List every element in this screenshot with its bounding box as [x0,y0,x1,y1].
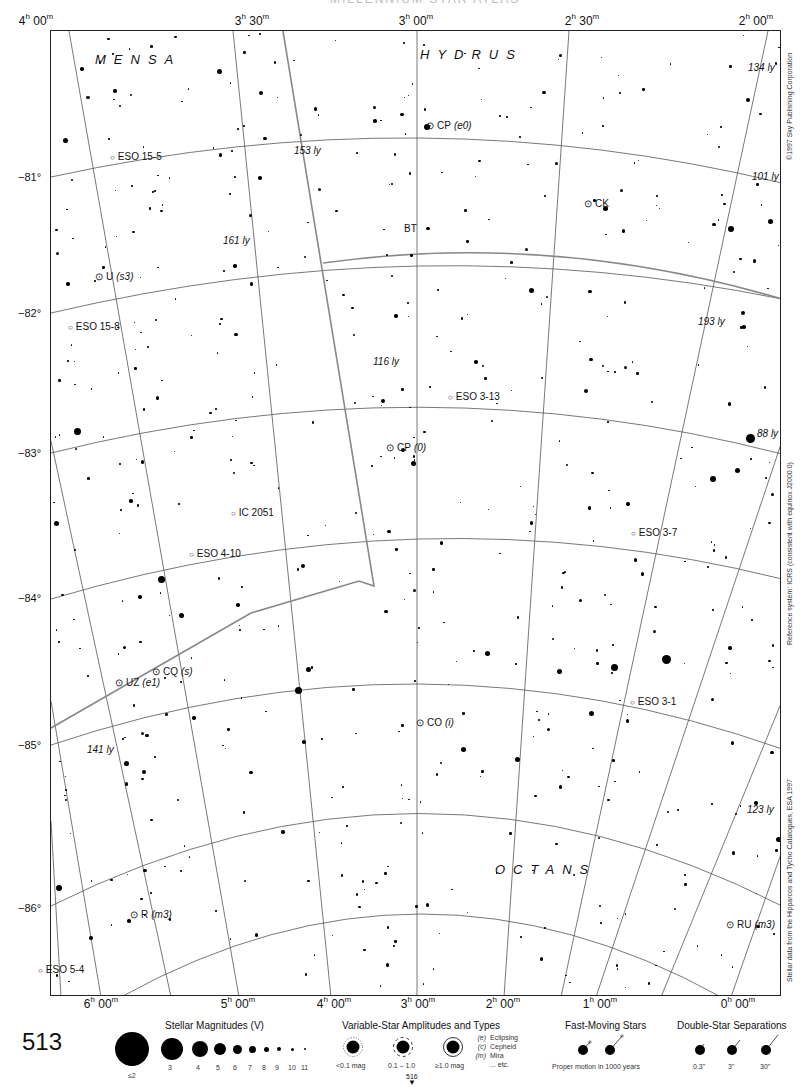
variable-type-row: (e)Eclipsing [468,1033,518,1042]
star [605,234,607,236]
ra-minutes: 00 [33,14,46,28]
object-label[interactable]: ○ESO 4-10 [189,548,241,559]
star [510,261,513,264]
next-page-pointer[interactable]: 516 ▼ [406,1073,418,1086]
object-label[interactable]: ⊙CO(i) [416,717,454,728]
star [582,132,584,134]
star [534,795,537,798]
object-label[interactable]: ⊙UZ(e1) [115,677,160,688]
star [443,622,445,624]
double-sep-1: 3" [728,1063,734,1070]
ra-label: 6h 00m [84,997,119,1011]
star [408,95,410,97]
object-label[interactable]: ○IC 2051 [231,507,274,518]
object-name: R [141,909,148,920]
star [237,128,239,130]
star [555,843,558,846]
star [119,463,121,465]
star [215,408,217,410]
star [565,975,567,977]
star [391,275,394,278]
star [562,770,564,772]
object-type: (s3) [116,271,133,282]
object-label[interactable]: ○ESO 3-7 [631,527,677,538]
object-label[interactable]: ⊙RU(m3) [726,919,775,930]
star [140,898,143,901]
star [429,386,431,388]
ra-m-unit: m [47,12,54,21]
star [400,822,403,825]
star [318,114,320,116]
object-label[interactable]: ○ESO 15-8 [68,321,120,332]
star [71,179,74,182]
star [335,40,337,42]
magnitude-dot [277,1047,281,1051]
star [380,120,382,122]
ra-label: 3h 30m [235,14,270,28]
variable-star-symbols [340,1035,485,1059]
star [141,732,145,736]
star [757,855,759,857]
star [122,738,124,740]
star [417,642,419,644]
object-label[interactable]: ○ESO 3-1 [630,696,676,707]
star [482,365,485,368]
ra-label: 0h 00m [721,997,756,1011]
object-label[interactable]: ⊙CK [584,198,609,209]
star [608,490,610,492]
star [193,430,195,432]
star [473,650,475,652]
object-label[interactable]: ○ESO 15-5 [110,151,162,162]
star [278,625,280,627]
object-label[interactable]: ⊙CP(e0) [426,120,472,131]
object-label[interactable]: ⊙CP(0) [386,442,426,453]
star [386,254,388,256]
ra-m-unit: m [427,12,434,21]
reference-system-note: Reference system: ICRS (consistent with … [786,462,793,645]
star [778,47,780,49]
object-label[interactable]: ○ESO 3-13 [448,391,500,402]
star [190,436,193,439]
star [394,940,397,943]
object-label[interactable]: ⊙CQ(s) [152,666,193,677]
star [426,903,430,907]
ra-label: 4h 00m [317,997,352,1011]
star [723,203,726,206]
object-label[interactable]: ⊙R(m3) [130,909,172,920]
star [301,564,305,568]
star [243,51,246,54]
star [405,133,407,135]
star [140,277,142,279]
magnitude-dot [249,1046,256,1053]
star [154,756,156,758]
variable-star-icon: ⊙ [416,717,424,728]
object-label[interactable]: BT [401,223,417,234]
star [209,412,212,415]
object-type: (m3) [754,919,775,930]
star [331,797,333,799]
double-sep-2: 30" [760,1063,770,1070]
star [598,837,601,840]
star [243,125,245,127]
object-name: CQ [163,666,178,677]
star [105,246,107,248]
object-label[interactable]: ⊙U(s3) [95,271,133,282]
star [636,372,639,375]
star [150,819,153,822]
star [533,506,535,508]
star [680,458,682,460]
star [408,316,410,318]
star [125,782,129,786]
star [160,592,162,594]
star [437,289,439,291]
star [688,242,690,244]
object-label[interactable]: ○ESO 5-4 [38,964,84,975]
variable-star-icon: ⊙ [584,198,592,209]
star [234,333,238,337]
star [747,346,749,348]
star [116,236,118,238]
star [684,874,686,876]
star [714,544,716,546]
amp-medium: 0.1 – 1.0 [388,1062,415,1069]
ra-hours: 3 [235,14,242,28]
